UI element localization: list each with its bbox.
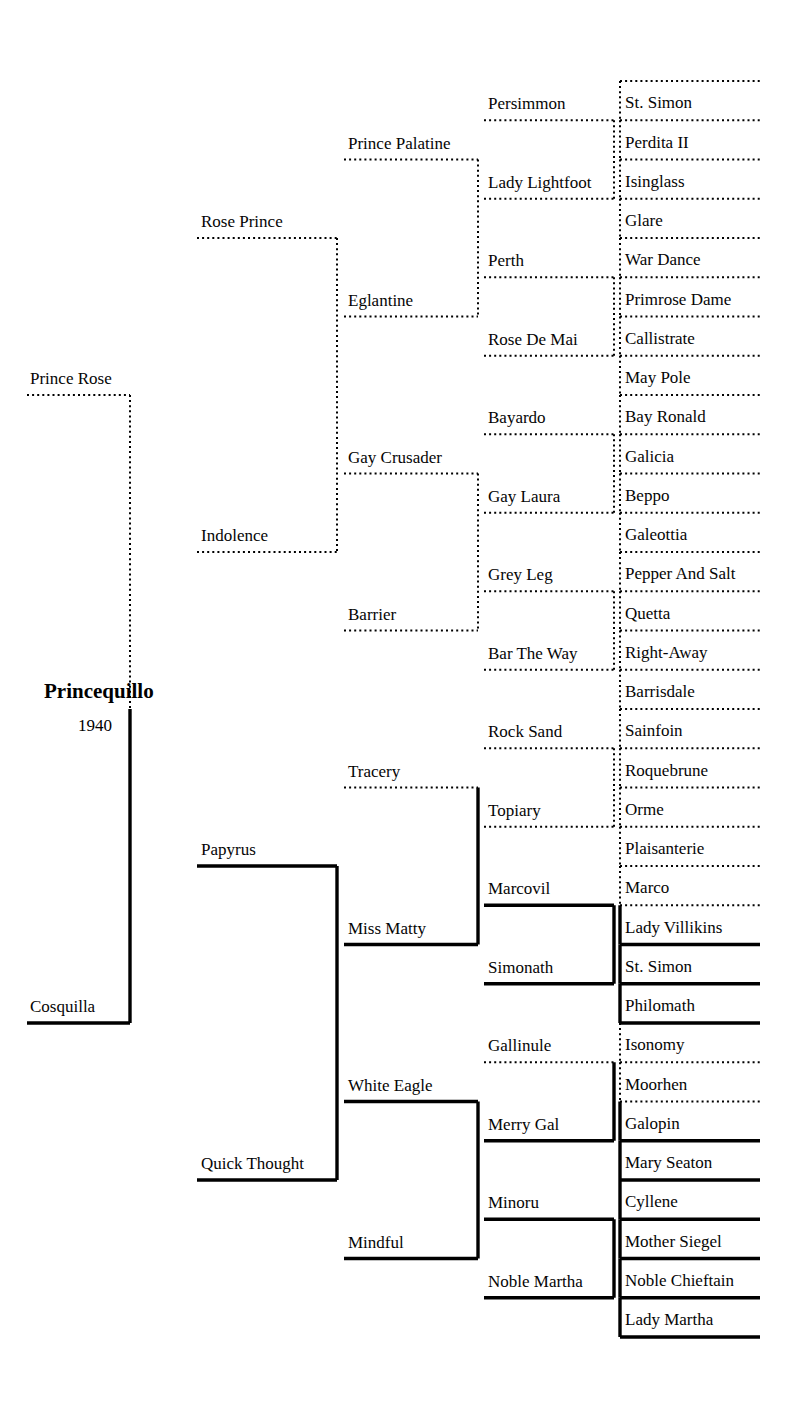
ancestor-g4-topiary: Topiary	[488, 802, 541, 819]
ancestor-g5-bay-ronald-8: Bay Ronald	[625, 408, 706, 425]
ancestor-g4-simonath: Simonath	[488, 959, 553, 976]
ancestor-g5-right-away-14: Right-Away	[625, 644, 708, 661]
ancestor-g4-gallinule: Gallinule	[488, 1037, 551, 1054]
ancestor-g5-galeottia-11: Galeottia	[625, 526, 687, 543]
ancestor-g5-marco-20: Marco	[625, 879, 669, 896]
ancestor-g2-indolence: Indolence	[201, 527, 268, 544]
ancestor-g5-cyllene-28: Cyllene	[625, 1193, 678, 1210]
ancestor-g5-lady-martha-31: Lady Martha	[625, 1311, 713, 1328]
ancestor-g4-lady-lightfoot: Lady Lightfoot	[488, 174, 591, 191]
subject-year: 1940	[78, 716, 112, 736]
ancestor-g5-primrose-dame-5: Primrose Dame	[625, 291, 731, 308]
ancestor-g5-mother-siegel-29: Mother Siegel	[625, 1233, 722, 1250]
ancestor-g5-galicia-9: Galicia	[625, 448, 674, 465]
ancestor-g4-grey-leg: Grey Leg	[488, 566, 553, 583]
ancestor-g2-quick-thought: Quick Thought	[201, 1155, 304, 1172]
ancestor-g4-bayardo: Bayardo	[488, 409, 546, 426]
ancestor-g4-bar-the-way: Bar The Way	[488, 645, 578, 662]
ancestor-g4-persimmon: Persimmon	[488, 95, 565, 112]
ancestor-g5-roquebrune-17: Roquebrune	[625, 762, 708, 779]
ancestor-g5-lady-villikins-21: Lady Villikins	[625, 919, 722, 936]
ancestor-g1-cosquilla: Cosquilla	[30, 998, 95, 1015]
ancestor-g5-barrisdale-15: Barrisdale	[625, 683, 695, 700]
ancestor-g5-isinglass-2: Isinglass	[625, 173, 685, 190]
ancestor-g3-prince-palatine: Prince Palatine	[348, 135, 450, 152]
ancestor-g4-rose-de-mai: Rose De Mai	[488, 331, 578, 348]
ancestor-g5-moorhen-25: Moorhen	[625, 1076, 687, 1093]
ancestor-g5-noble-chieftain-30: Noble Chieftain	[625, 1272, 734, 1289]
ancestor-g5-war-dance-4: War Dance	[625, 251, 701, 268]
ancestor-g3-white-eagle: White Eagle	[348, 1077, 433, 1094]
ancestor-g4-rock-sand: Rock Sand	[488, 723, 562, 740]
ancestor-g3-mindful: Mindful	[348, 1234, 404, 1251]
ancestor-g5-mary-seaton-27: Mary Seaton	[625, 1154, 712, 1171]
ancestor-g2-rose-prince: Rose Prince	[201, 213, 283, 230]
ancestor-g5-orme-18: Orme	[625, 801, 664, 818]
ancestor-g4-minoru: Minoru	[488, 1194, 539, 1211]
ancestor-g1-prince-rose: Prince Rose	[30, 370, 112, 387]
ancestor-g5-sainfoin-16: Sainfoin	[625, 722, 683, 739]
ancestor-g5-philomath-23: Philomath	[625, 997, 695, 1014]
ancestor-g3-miss-matty: Miss Matty	[348, 920, 426, 937]
ancestor-g5-plaisanterie-19: Plaisanterie	[625, 840, 704, 857]
ancestor-g5-quetta-13: Quetta	[625, 605, 670, 622]
ancestor-g3-gay-crusader: Gay Crusader	[348, 449, 442, 466]
page-title: Princequillo	[44, 679, 154, 704]
ancestor-g5-glare-3: Glare	[625, 212, 663, 229]
ancestor-g5-may-pole-7: May Pole	[625, 369, 691, 386]
ancestor-g5-pepper-and-salt-12: Pepper And Salt	[625, 565, 736, 582]
ancestor-g5-perdita-ii-1: Perdita II	[625, 134, 689, 151]
ancestor-g5-beppo-10: Beppo	[625, 487, 669, 504]
ancestor-g2-papyrus: Papyrus	[201, 841, 256, 858]
ancestor-g3-barrier: Barrier	[348, 606, 396, 623]
ancestor-g4-merry-gal: Merry Gal	[488, 1116, 559, 1133]
ancestor-g4-noble-martha: Noble Martha	[488, 1273, 583, 1290]
ancestor-g4-perth: Perth	[488, 252, 524, 269]
ancestor-g3-eglantine: Eglantine	[348, 292, 413, 309]
ancestor-g5-st-simon-22: St. Simon	[625, 958, 692, 975]
ancestor-g5-st-simon-0: St. Simon	[625, 94, 692, 111]
ancestor-g3-tracery: Tracery	[348, 763, 400, 780]
pedigree-chart: Prince RoseCosquillaRose PrinceIndolence…	[0, 0, 800, 1405]
ancestor-g5-galopin-26: Galopin	[625, 1115, 680, 1132]
ancestor-g5-isonomy-24: Isonomy	[625, 1036, 685, 1053]
ancestor-g4-marcovil: Marcovil	[488, 880, 550, 897]
ancestor-g4-gay-laura: Gay Laura	[488, 488, 560, 505]
ancestor-g5-callistrate-6: Callistrate	[625, 330, 695, 347]
